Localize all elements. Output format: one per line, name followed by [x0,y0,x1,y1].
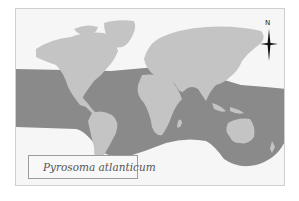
legend-label: Pyrosoma atlanticum [43,161,156,173]
legend: Pyrosoma atlanticum [28,155,138,179]
north-label: N [265,19,270,27]
map-frame: N Pyrosoma atlanticum [15,8,285,186]
